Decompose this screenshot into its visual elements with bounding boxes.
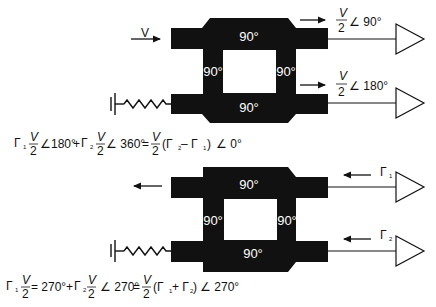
- svg-text:1: 1: [15, 287, 19, 293]
- output-top-angle: ∠ 90°: [349, 15, 382, 29]
- svg-text:2: 2: [30, 144, 37, 158]
- reflection-top: Γ 1: [328, 165, 424, 202]
- output-bottom-den: 2: [338, 85, 345, 99]
- left-section-label: 90°: [203, 64, 223, 79]
- svg-text:2: 2: [152, 144, 159, 158]
- top-equation: Γ 1 V 2 ∠180° + Γ 2 V 2 ∠ 360° = V 2 (Γ …: [14, 130, 242, 158]
- svg-text:+: +: [66, 280, 73, 294]
- right-section-label: 90°: [276, 64, 296, 79]
- svg-text:2: 2: [97, 144, 104, 158]
- right-section-label: 90°: [277, 213, 297, 228]
- svg-text:V: V: [152, 130, 161, 144]
- output-top-num: V: [339, 6, 348, 20]
- svg-text:+ Γ: + Γ: [172, 280, 189, 294]
- svg-text:2: 2: [389, 236, 393, 242]
- svg-text:Γ: Γ: [14, 136, 21, 150]
- svg-text:∠ 0°: ∠ 0°: [216, 137, 242, 151]
- svg-text:=: =: [142, 137, 149, 151]
- bottom-section-label: 90°: [243, 246, 263, 261]
- bottom-coupler: 90° 90° 90° 90°: [171, 167, 328, 272]
- svg-text:(Γ: (Γ: [162, 137, 173, 151]
- svg-text:V: V: [30, 130, 39, 144]
- load-triangle-icon: [396, 236, 424, 266]
- svg-text:2: 2: [90, 144, 94, 150]
- svg-text:Γ: Γ: [380, 228, 387, 242]
- top-section-label: 90°: [239, 177, 259, 192]
- left-section-label: 90°: [203, 213, 223, 228]
- output-bottom-num: V: [339, 69, 348, 83]
- termination-resistor-bottom: [111, 240, 171, 262]
- svg-text:1: 1: [389, 173, 393, 179]
- output-bottom-angle: ∠ 180°: [349, 79, 388, 93]
- svg-text:2: 2: [22, 287, 29, 301]
- bottom-equation: Γ 1 V 2 = 270° + Γ 2 V 2 ∠ 270° = V 2 (Γ…: [6, 273, 239, 301]
- svg-text:Γ: Γ: [74, 279, 81, 293]
- svg-text:Γ: Γ: [6, 279, 13, 293]
- svg-text:∠ 360°: ∠ 360°: [106, 137, 145, 151]
- input-arrow: V: [131, 26, 160, 40]
- svg-text:V: V: [143, 273, 152, 287]
- load-triangle-icon: [396, 88, 424, 118]
- bottom-section-label: 90°: [239, 100, 259, 115]
- output-top-den: 2: [338, 21, 345, 35]
- load-triangle-icon: [396, 24, 424, 54]
- svg-text:– Γ: – Γ: [181, 137, 198, 151]
- svg-text:∠ 270°: ∠ 270°: [200, 280, 239, 294]
- top-coupler: 90° 90° 90° 90°: [171, 18, 328, 123]
- input-voltage-label: V: [141, 26, 149, 40]
- svg-text:=: =: [133, 280, 140, 294]
- diagram-canvas: 90° 90° 90° 90° V V 2 ∠ 90° V 2 ∠ 180° Γ: [0, 0, 436, 307]
- svg-text:2: 2: [83, 287, 87, 293]
- svg-text:): ): [193, 280, 197, 294]
- svg-text:Γ: Γ: [81, 136, 88, 150]
- svg-text:= 270°: = 270°: [31, 280, 66, 294]
- svg-text:∠180°: ∠180°: [40, 137, 76, 151]
- svg-text:V: V: [97, 130, 106, 144]
- svg-text:2: 2: [88, 287, 95, 301]
- svg-text:): ): [207, 137, 211, 151]
- svg-text:1: 1: [23, 144, 27, 150]
- load-triangle-icon: [396, 172, 424, 202]
- svg-text:Γ: Γ: [380, 165, 387, 179]
- svg-text:2: 2: [143, 287, 150, 301]
- svg-text:V: V: [88, 273, 97, 287]
- svg-text:(Γ: (Γ: [153, 280, 164, 294]
- svg-text:+: +: [73, 137, 80, 151]
- resistor-icon: [124, 247, 171, 255]
- termination-resistor-top: [111, 93, 171, 115]
- resistor-icon: [124, 100, 171, 108]
- top-section-label: 90°: [239, 29, 259, 44]
- reflection-bottom: Γ 2: [328, 228, 424, 266]
- svg-text:V: V: [22, 273, 31, 287]
